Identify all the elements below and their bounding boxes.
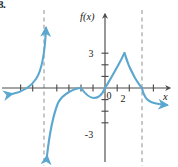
y-tick-label-negative: -3 — [85, 129, 93, 140]
y-axis-label: f(x) — [80, 11, 95, 23]
origin-label: 0 — [107, 90, 112, 101]
y-tick-label-positive: 3 — [89, 48, 94, 59]
x-tick-label-2: 2 — [121, 93, 126, 104]
x-axis-label: x — [162, 91, 168, 102]
curve-branch-descent — [125, 53, 143, 89]
graph-svg: f(x) x 0 3 -3 2 — [0, 0, 178, 167]
curve-branch-left — [12, 28, 46, 94]
curve-branch-middle — [47, 88, 81, 156]
figure-container: 8. — [0, 0, 178, 167]
curve-branch-peak — [105, 53, 125, 88]
